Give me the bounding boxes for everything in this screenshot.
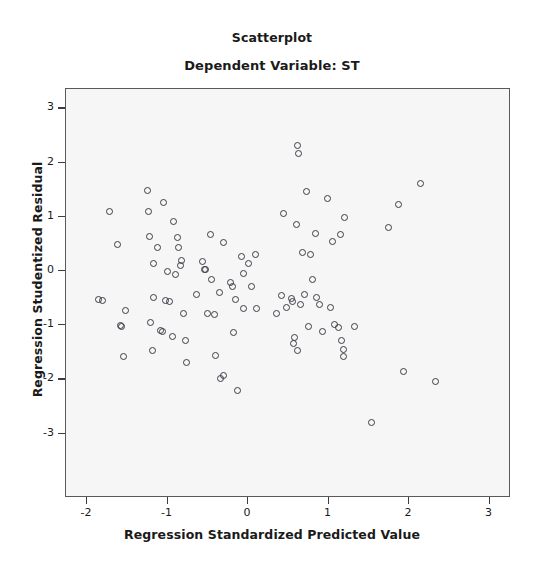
data-point	[400, 368, 407, 375]
data-point	[240, 270, 247, 277]
data-point	[202, 266, 209, 273]
data-point	[316, 301, 323, 308]
x-tick-label: 2	[393, 506, 423, 519]
data-point	[166, 298, 173, 305]
x-tick-mark	[247, 497, 248, 504]
data-point	[159, 328, 166, 335]
data-point	[182, 337, 189, 344]
data-point	[175, 244, 182, 251]
y-tick-mark	[58, 270, 65, 271]
y-tick-mark	[58, 107, 65, 108]
data-point	[122, 307, 129, 314]
data-point	[341, 214, 348, 221]
x-tick-mark	[86, 497, 87, 504]
data-point	[150, 260, 157, 267]
data-point	[432, 378, 439, 385]
data-point	[120, 353, 127, 360]
data-point	[294, 142, 301, 149]
y-tick-mark	[58, 216, 65, 217]
data-point	[335, 324, 342, 331]
data-point	[180, 310, 187, 317]
data-point	[145, 208, 152, 215]
data-point	[232, 296, 239, 303]
data-point	[297, 301, 304, 308]
data-point	[193, 291, 200, 298]
data-point	[293, 221, 300, 228]
y-tick-mark	[58, 324, 65, 325]
data-point	[351, 323, 358, 330]
data-point	[395, 201, 402, 208]
data-point	[172, 271, 179, 278]
data-point	[208, 276, 215, 283]
data-point	[154, 244, 161, 251]
data-point	[327, 304, 334, 311]
data-point	[106, 208, 113, 215]
data-point	[229, 283, 236, 290]
data-point	[150, 294, 157, 301]
data-point	[309, 276, 316, 283]
data-point	[417, 180, 424, 187]
data-point	[273, 310, 280, 317]
data-point	[283, 304, 290, 311]
data-point	[169, 333, 176, 340]
data-point	[340, 353, 347, 360]
data-point	[118, 323, 125, 330]
data-point	[183, 359, 190, 366]
data-point	[144, 187, 151, 194]
data-point	[230, 329, 237, 336]
x-tick-label: 3	[474, 506, 504, 519]
data-point	[312, 230, 319, 237]
data-point	[295, 150, 302, 157]
data-point	[324, 195, 331, 202]
data-points-layer	[66, 89, 509, 496]
x-tick-label: 1	[313, 506, 343, 519]
data-point	[278, 292, 285, 299]
data-point	[368, 419, 375, 426]
y-tick-mark	[58, 433, 65, 434]
x-tick-label: 0	[232, 506, 262, 519]
data-point	[338, 337, 345, 344]
x-tick-mark	[489, 497, 490, 504]
scatterplot-figure: Scatterplot Dependent Variable: ST -2-10…	[0, 0, 544, 569]
data-point	[178, 257, 185, 264]
y-tick-mark	[58, 162, 65, 163]
data-point	[199, 258, 206, 265]
data-point	[114, 241, 121, 248]
data-point	[303, 188, 310, 195]
x-tick-label: -1	[152, 506, 182, 519]
data-point	[164, 268, 171, 275]
x-tick-mark	[167, 497, 168, 504]
data-point	[305, 323, 312, 330]
x-tick-mark	[328, 497, 329, 504]
chart-subtitle: Dependent Variable: ST	[0, 58, 544, 73]
data-point	[174, 234, 181, 241]
data-point	[212, 352, 219, 359]
data-point	[299, 249, 306, 256]
data-point	[301, 291, 308, 298]
y-tick-mark	[58, 378, 65, 379]
data-point	[294, 347, 301, 354]
data-point	[253, 305, 260, 312]
data-point	[252, 251, 259, 258]
data-point	[319, 328, 326, 335]
data-point	[245, 260, 252, 267]
data-point	[160, 199, 167, 206]
data-point	[146, 233, 153, 240]
data-point	[329, 238, 336, 245]
plot-area	[65, 88, 510, 497]
data-point	[216, 289, 223, 296]
data-point	[248, 283, 255, 290]
title-block: Scatterplot Dependent Variable: ST	[0, 0, 544, 73]
data-point	[291, 334, 298, 341]
data-point	[234, 387, 241, 394]
data-point	[170, 218, 177, 225]
data-point	[340, 346, 347, 353]
data-point	[147, 319, 154, 326]
data-point	[149, 347, 156, 354]
x-tick-label: -2	[71, 506, 101, 519]
data-point	[211, 311, 218, 318]
x-tick-mark	[408, 497, 409, 504]
data-point	[313, 294, 320, 301]
data-point	[289, 298, 296, 305]
y-axis-title: Regression Studentized Residual	[30, 80, 45, 480]
